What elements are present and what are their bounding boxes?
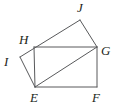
- geometry-figure: J H G I E F: [0, 0, 122, 108]
- vertex-label-G: G: [101, 44, 110, 57]
- segments-group: [20, 20, 97, 87]
- segment-IJ: [20, 20, 80, 57]
- segment-HE: [34, 47, 35, 87]
- segment-EI: [20, 57, 35, 87]
- vertex-label-H: H: [19, 33, 28, 46]
- vertex-label-J: J: [77, 1, 83, 14]
- segment-JG: [80, 20, 97, 47]
- segment-EG: [35, 47, 97, 87]
- vertex-label-F: F: [92, 91, 100, 104]
- vertex-label-E: E: [30, 91, 38, 104]
- vertex-label-I: I: [4, 55, 8, 68]
